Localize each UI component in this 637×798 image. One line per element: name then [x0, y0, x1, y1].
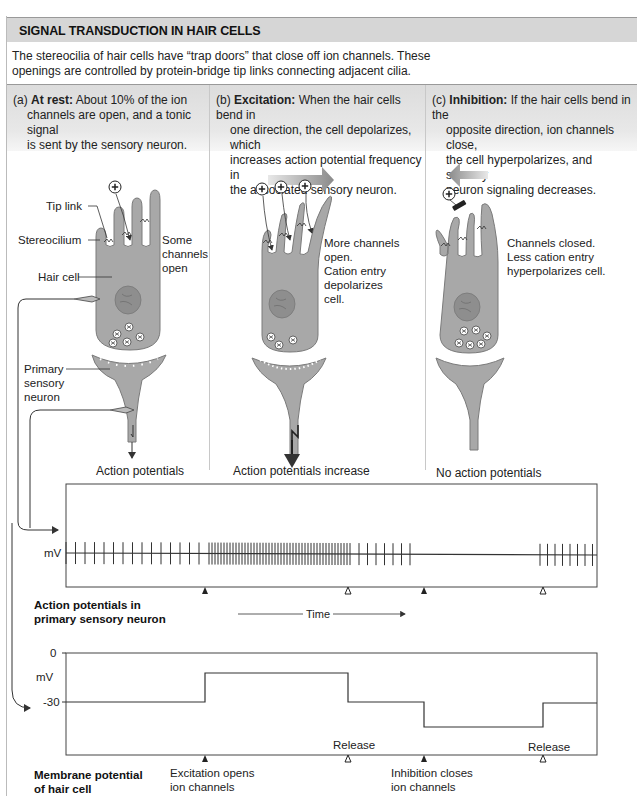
bend-left-arrow-icon — [448, 163, 488, 187]
chart2-title: Membrane potential of hair cell — [34, 768, 143, 796]
label-some-channels-open: Some channels open — [162, 233, 208, 275]
label-line: sensory — [24, 376, 64, 390]
label-line: neuron — [24, 390, 64, 404]
closed-channel-icon — [452, 200, 467, 211]
marker-filled-icon — [421, 755, 427, 762]
label-no-action-potentials: No action potentials — [436, 466, 541, 480]
marker-open-icon — [345, 755, 351, 762]
label-release-2: Release — [528, 740, 570, 754]
chart1-title: Action potentials in primary sensory neu… — [34, 598, 166, 626]
marker-open-icon — [345, 587, 351, 594]
chart2-ylabel: mV — [36, 670, 53, 684]
label-action-potentials: Action potentials — [96, 464, 184, 478]
marker-filled-icon — [202, 587, 208, 594]
hair-cell-excitation — [252, 167, 334, 466]
chart1-ylabel: mV — [44, 546, 61, 560]
label-line: cell. — [324, 292, 399, 306]
chart-title-line: Membrane potential — [34, 768, 143, 782]
chart2-ytick-0: 0 — [50, 646, 56, 660]
chart-title-line: Action potentials in — [34, 598, 166, 612]
label-line: Inhibition closes — [391, 766, 473, 780]
label-line: Excitation opens — [170, 766, 254, 780]
label-stereocilium: Stereocilium — [18, 233, 81, 247]
label-line: depolarizes — [324, 278, 399, 292]
label-line: Primary — [24, 362, 64, 376]
chart1-xlabel: Time — [306, 607, 330, 621]
label-action-potentials-increase: Action potentials increase — [233, 464, 370, 478]
marker-filled-icon — [421, 587, 427, 594]
diagram-drawing — [0, 0, 637, 798]
membrane-potential-chart — [62, 653, 597, 762]
chart-title-line: primary sensory neuron — [34, 612, 166, 626]
label-more-channels-open: More channels open. Cation entry depolar… — [324, 236, 399, 306]
label-line: ion channels — [170, 780, 254, 794]
label-line: Some — [162, 233, 208, 247]
marker-open-icon — [540, 587, 546, 594]
label-line: ion channels — [391, 780, 473, 794]
label-line: channels — [162, 247, 208, 261]
label-primary-neuron: Primary sensory neuron — [24, 362, 64, 404]
label-release-1: Release — [333, 738, 375, 752]
label-tip-link: Tip link — [46, 199, 82, 213]
label-excitation-opens: Excitation opens ion channels — [170, 766, 254, 794]
marker-open-icon — [540, 755, 546, 762]
chart2-ytick-30: -30 — [43, 695, 60, 709]
marker-filled-icon — [202, 755, 208, 762]
label-line: open. — [324, 250, 399, 264]
label-line: Cation entry — [324, 264, 399, 278]
label-line: More channels — [324, 236, 399, 250]
label-line: Channels closed. — [507, 236, 605, 250]
label-line: Less cation entry — [507, 250, 605, 264]
action-potential-chart — [66, 484, 597, 614]
hair-cell-inhibition — [436, 163, 504, 450]
label-channels-closed: Channels closed. Less cation entry hyper… — [507, 236, 605, 278]
label-line: open — [162, 261, 208, 275]
label-line: hyperpolarizes cell. — [507, 264, 605, 278]
hair-cell-at-rest — [92, 181, 166, 458]
chart-title-line: of hair cell — [34, 782, 143, 796]
label-inhibition-closes: Inhibition closes ion channels — [391, 766, 473, 794]
label-hair-cell: Hair cell — [38, 270, 80, 284]
